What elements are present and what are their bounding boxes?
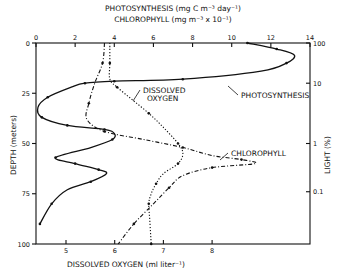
dissolved-oxygen-line [109,43,183,244]
photosynthesis-point [46,96,49,99]
left-axis-title: DEPTH (meters) [9,115,18,175]
bottom-tick-label: 8 [210,247,214,255]
chlorophyll-leader-line [220,153,228,160]
photosynthesis-point [181,78,184,81]
dissolved-oxygen-point [116,86,119,89]
left-tick-label: 0 [26,40,30,48]
left-tick-label: 100 [18,241,30,249]
top-axis-title-photosynthesis: PHOTOSYNTHESIS (mg C m⁻³ day⁻¹) [105,4,241,13]
series-layer [37,42,294,246]
dissolved-oxygen-point [177,162,180,165]
chlorophyll-point [133,223,136,226]
series-chlorophyll [86,43,256,244]
left-axis-ticks: 0255075100 [18,40,36,249]
bottom-axis-title: DISSOLVED OXYGEN (ml liter⁻¹) [67,260,185,269]
top-axis-ticks: 02468101214 [34,34,314,47]
bottom-tick-label: 7 [161,247,165,255]
photosynthesis-point [285,62,288,65]
chlorophyll-point [211,166,214,169]
chlorophyll-point [181,146,184,149]
left-tick-label: 25 [22,90,30,98]
top-tick-label: 2 [73,34,77,42]
photosynthesis-point [50,203,53,206]
series-dissolved-oxygen [109,43,183,245]
dissolved-oxygen-point [150,243,153,246]
chlorophyll-point [168,186,171,189]
photosynthesis-point [66,124,69,127]
right-tick-label: 10 [313,80,321,88]
left-tick-label: 75 [22,190,30,198]
photosynthesis-point [275,48,278,51]
dissolved-oxygen-point [155,182,158,185]
top-tick-label: 0 [34,34,38,42]
top-tick-label: 6 [151,34,155,42]
photosynthesis-point [74,162,77,165]
dissolved-oxygen-point [147,203,150,206]
chlorophyll-point [101,62,104,65]
series-photosynthesis [37,42,294,226]
right-tick-label: 0.1 [313,188,323,196]
chlorophyll-point [240,158,243,161]
chlorophyll-line [86,43,256,244]
top-tick-label: 8 [191,34,195,42]
dissolved-oxygen-point [109,62,112,65]
photosynthesis-point [84,82,87,85]
photosynthesis-point [41,116,44,119]
photosynthesis-point [113,80,116,83]
bottom-tick-label: 6 [113,247,117,255]
dissolved-oxygen-label: OXYGEN [147,94,178,103]
chlorophyll-point [103,130,106,133]
photosynthesis-point [90,180,93,183]
plot-frame [36,43,310,244]
right-tick-label: 100 [313,40,325,48]
bottom-axis-ticks: 5678 [64,240,214,255]
top-tick-label: 4 [112,34,116,42]
photosynthesis-point [54,156,57,159]
top-tick-label: 12 [267,34,275,42]
chlorophyll-point [88,102,91,105]
photosynthesis-label: PHOTOSYNTHESIS [241,91,309,100]
dissolved-oxygen-leader-line [133,90,140,101]
photosynthesis-point [111,138,114,141]
bottom-tick-label: 5 [64,247,68,255]
photosynthesis-point [97,168,100,171]
depth-profile-chart: PHOTOSYNTHESIS (mg C m⁻³ day⁻¹) CHLOROPH… [0,0,341,277]
dissolved-oxygen-point [177,142,180,145]
photosynthesis-point [246,42,249,45]
right-tick-label: 1 [313,140,317,148]
left-tick-label: 50 [22,140,30,148]
dissolved-oxygen-point [147,112,150,115]
photosynthesis-line [37,43,294,224]
top-tick-label: 10 [228,34,236,42]
photosynthesis-leader-line [228,86,238,95]
chlorophyll-label: CHLOROPHYLL [231,149,287,158]
top-axis-title-chlorophyll: CHLOROPHYLL (mg m⁻³ x 10⁻¹) [114,15,232,24]
right-axis-title: LIGHT (%) [323,136,332,174]
photosynthesis-point [39,223,42,226]
